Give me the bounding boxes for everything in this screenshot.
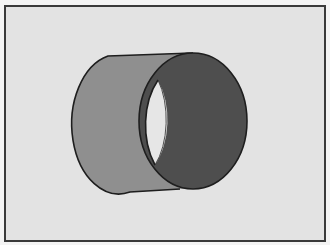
cylinder-illustration [0,0,330,245]
